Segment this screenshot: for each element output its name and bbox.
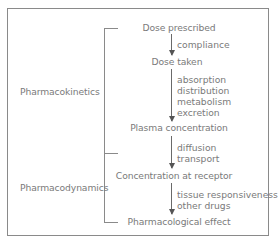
bracket-tick-bottom	[104, 222, 118, 223]
arrow-down-icon	[171, 69, 172, 121]
edge-label: distribution	[177, 85, 231, 96]
edge-label: diffusion	[177, 142, 219, 153]
bracket-vertical-line	[104, 28, 105, 223]
arrow-down-icon	[171, 136, 172, 168]
edge-label-group: diffusion transport	[177, 142, 219, 164]
node-plasma-concentration: Plasma concentration	[130, 122, 228, 133]
arrow-down-icon	[171, 183, 172, 214]
edge-label: metabolism	[177, 96, 231, 107]
edge-label-group: absorption distribution metabolism excre…	[177, 74, 231, 118]
node-dose-prescribed: Dose prescribed	[142, 22, 215, 33]
edge-label: excretion	[177, 107, 231, 118]
node-dose-taken: Dose taken	[152, 56, 203, 67]
arrow-down-icon	[171, 34, 172, 55]
node-pharmacological-effect: Pharmacological effect	[128, 216, 231, 227]
edge-label-group: compliance	[177, 39, 230, 50]
bracket-tick-top	[104, 28, 118, 29]
node-concentration-at-receptor: Concentration at receptor	[116, 170, 232, 181]
edge-label-group: tissue responsiveness other drugs	[177, 189, 278, 211]
bracket-tick-middle	[104, 153, 118, 154]
group-label-pharmacodynamics: Pharmacodynamics	[20, 182, 108, 193]
edge-label: tissue responsiveness	[177, 189, 278, 200]
edge-label: compliance	[177, 39, 230, 50]
edge-label: transport	[177, 153, 219, 164]
edge-label: other drugs	[177, 200, 278, 211]
edge-label: absorption	[177, 74, 231, 85]
group-label-pharmacokinetics: Pharmacokinetics	[20, 86, 100, 97]
